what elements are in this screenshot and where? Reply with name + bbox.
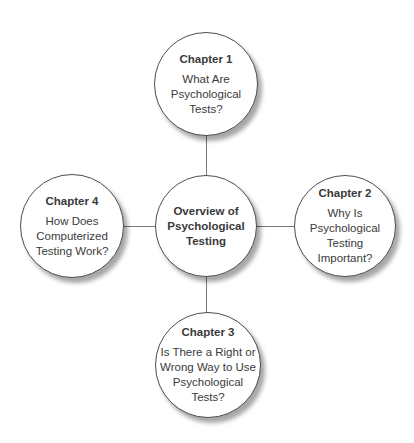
concept-map-diagram: Chapter 1 What Are Psychological Tests? … <box>0 0 414 443</box>
node-chapter-3-body: Is There a Right or Wrong Way to Use Psy… <box>160 345 256 405</box>
node-chapter-4: Chapter 4 How Does Computerized Testing … <box>20 174 124 278</box>
node-chapter-2-body: Why Is Psychological Testing Important? <box>310 206 380 266</box>
node-chapter-2-heading: Chapter 2 <box>318 186 371 201</box>
node-chapter-1-body: What Are Psychological Tests? <box>171 72 241 117</box>
node-chapter-1: Chapter 1 What Are Psychological Tests? <box>154 32 258 136</box>
node-overview-title: Overview of Psychological Testing <box>167 204 244 249</box>
node-overview-center: Overview of Psychological Testing <box>155 175 257 277</box>
node-chapter-3: Chapter 3 Is There a Right or Wrong Way … <box>155 312 261 418</box>
node-chapter-2: Chapter 2 Why Is Psychological Testing I… <box>294 175 396 277</box>
node-chapter-1-heading: Chapter 1 <box>179 52 232 67</box>
node-chapter-4-body: How Does Computerized Testing Work? <box>36 214 109 259</box>
node-chapter-3-heading: Chapter 3 <box>181 325 234 340</box>
node-chapter-4-heading: Chapter 4 <box>45 194 98 209</box>
